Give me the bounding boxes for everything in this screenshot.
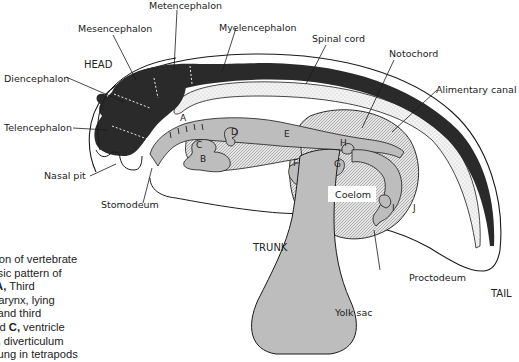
label-coelom: Coelom (335, 189, 371, 200)
label-head: HEAD (84, 59, 113, 70)
label-spinal-cord: Spinal cord (312, 33, 365, 44)
label-telencephalon: Telencephalon (3, 122, 72, 133)
letter-b: B (200, 154, 206, 164)
label-nasal-pit: Nasal pit (44, 170, 86, 181)
label-proctodeum: Proctodeum (409, 272, 466, 283)
caption-line-7: eart; D, diverticulum (0, 335, 154, 349)
caption-line-4: h of pharynx, lying (0, 294, 154, 308)
label-myelencephalon: Myelencephalon (219, 22, 297, 33)
letter-f: F (293, 158, 298, 168)
letter-a: A (180, 113, 187, 123)
caption-line-5: econd and third (0, 307, 154, 321)
label-metencephalon: Metencephalon (149, 0, 222, 11)
letter-e: E (284, 129, 290, 139)
label-stomodeum: Stomodeum (101, 199, 159, 210)
letter-d: D (231, 127, 238, 137)
letter-i: I (392, 203, 395, 213)
label-trunk: TRUNK (252, 242, 288, 253)
label-tail: TAIL (490, 288, 512, 299)
letter-c: C (196, 140, 202, 150)
letter-g: G (334, 159, 341, 169)
label-diencephalon: Diencephalon (4, 73, 69, 84)
caption-line-6: s; B and C, ventricle (0, 321, 154, 335)
caption-line-8: to the lung in tetrapods (0, 348, 154, 362)
label-mesencephalon: Mesencephalon (78, 23, 152, 34)
label-yolk-sac: Yolk sac (334, 307, 373, 318)
label-alimentary-canal: Alimentary canal (436, 84, 517, 95)
caption-line-2: ting basic pattern of (0, 267, 154, 281)
figure-caption: al section of vertebrate ting basic patt… (0, 253, 154, 362)
letter-h: H (340, 138, 347, 148)
caption-line-3: cture. A, Third (0, 280, 154, 294)
letter-j: J (412, 203, 416, 213)
label-notochord: Notochord (389, 48, 438, 59)
caption-line-1: al section of vertebrate (0, 253, 154, 267)
